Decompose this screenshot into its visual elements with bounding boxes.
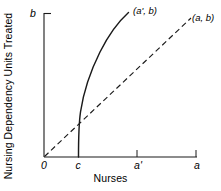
- x-axis-title: Nurses: [0, 172, 221, 184]
- y-axis-title-text: Nursing Dependency Units Treated: [3, 12, 14, 179]
- figure-container: Nursing Dependency Units Treated Nurses …: [0, 0, 221, 191]
- x-tick-label-a-prime: a': [130, 159, 146, 171]
- annotation-reference-line: (a, b): [192, 12, 214, 23]
- plot-area: [0, 0, 221, 191]
- y-tick-label-b: b: [26, 7, 40, 19]
- x-tick-label-origin: 0: [37, 159, 51, 171]
- y-axis-title: Nursing Dependency Units Treated: [0, 0, 16, 191]
- production-curve-solid: [79, 13, 129, 158]
- x-tick-label-a: a: [190, 159, 204, 171]
- x-tick-label-c: c: [71, 159, 85, 171]
- annotation-production-curve: (a', b): [133, 5, 157, 16]
- reference-line-dashed: [45, 18, 192, 157]
